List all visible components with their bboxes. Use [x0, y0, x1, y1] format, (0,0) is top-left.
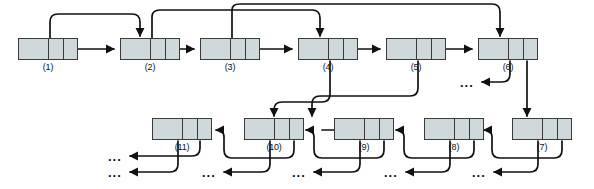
node-3[interactable] [200, 38, 260, 60]
node-9-data-cell [335, 119, 364, 139]
node-2-right-pointer-cell[interactable] [165, 39, 180, 59]
node-6-label: (6) [478, 62, 538, 72]
node-3-right-pointer-cell[interactable] [245, 39, 260, 59]
node-7-label: (7) [512, 142, 572, 152]
node-11-label: (11) [152, 142, 212, 152]
node-9-right-pointer-cell[interactable] [379, 119, 394, 139]
node-7-right-pointer-cell[interactable] [557, 119, 572, 139]
node-4-right-pointer-cell[interactable] [343, 39, 358, 59]
node-1[interactable] [18, 38, 78, 60]
node-11-left-pointer-cell[interactable] [182, 119, 197, 139]
node-2-data-cell [121, 39, 150, 59]
ellipsis-bottom-4: ... [292, 166, 306, 179]
ellipsis-bottom-6: ... [472, 166, 486, 179]
node-5-data-cell [387, 39, 416, 59]
node-2-label: (2) [120, 62, 180, 72]
node-10-data-cell [245, 119, 274, 139]
node-8-data-cell [425, 119, 454, 139]
node-2[interactable] [120, 38, 180, 60]
node-10-left-pointer-cell[interactable] [274, 119, 289, 139]
node-1-right-pointer-cell[interactable] [63, 39, 78, 59]
node-3-label: (3) [200, 62, 260, 72]
node-9-left-pointer-cell[interactable] [364, 119, 379, 139]
node-6-right-pointer-cell[interactable] [523, 39, 538, 59]
node-5-left-pointer-cell[interactable] [416, 39, 431, 59]
node-11-right-pointer-cell[interactable] [197, 119, 212, 139]
ellipsis-bottom-1: ... [108, 150, 122, 163]
ellipsis-top-right: ... [460, 76, 474, 89]
node-2-left-pointer-cell[interactable] [150, 39, 165, 59]
edge-layer [0, 0, 594, 189]
node-4-label: (4) [298, 62, 358, 72]
node-1-left-pointer-cell[interactable] [48, 39, 63, 59]
node-10-right-pointer-cell[interactable] [289, 119, 304, 139]
node-8-right-pointer-cell[interactable] [469, 119, 484, 139]
ellipsis-bottom-3: ... [202, 166, 216, 179]
ellipsis-bottom-5: ... [384, 166, 398, 179]
diagram-canvas: (1) (2) (3) (4) (5) (6) (11) (10 [0, 0, 594, 189]
node-7-left-pointer-cell[interactable] [542, 119, 557, 139]
node-11-data-cell [153, 119, 182, 139]
node-8[interactable] [424, 118, 484, 140]
node-9-label: (9) [334, 142, 394, 152]
node-5-label: (5) [386, 62, 446, 72]
node-4[interactable] [298, 38, 358, 60]
node-7-data-cell [513, 119, 542, 139]
node-6[interactable] [478, 38, 538, 60]
node-6-left-pointer-cell[interactable] [508, 39, 523, 59]
node-3-left-pointer-cell[interactable] [230, 39, 245, 59]
node-1-label: (1) [18, 62, 78, 72]
ellipsis-bottom-2: ... [108, 166, 122, 179]
node-5[interactable] [386, 38, 446, 60]
node-4-data-cell [299, 39, 328, 59]
node-7[interactable] [512, 118, 572, 140]
node-1-data-cell [19, 39, 48, 59]
node-8-label: (8) [424, 142, 484, 152]
node-11[interactable] [152, 118, 212, 140]
node-9[interactable] [334, 118, 394, 140]
node-8-left-pointer-cell[interactable] [454, 119, 469, 139]
node-6-data-cell [479, 39, 508, 59]
node-4-left-pointer-cell[interactable] [328, 39, 343, 59]
node-10[interactable] [244, 118, 304, 140]
node-3-data-cell [201, 39, 230, 59]
node-5-right-pointer-cell[interactable] [431, 39, 446, 59]
node-10-label: (10) [244, 142, 304, 152]
